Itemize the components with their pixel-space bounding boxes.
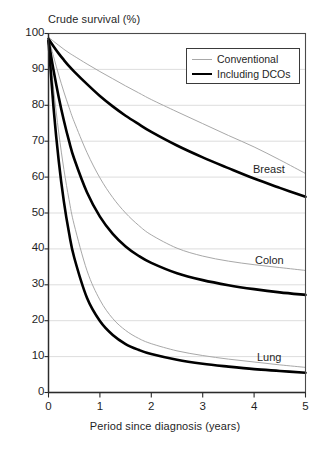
legend-line-including-dcos-icon (192, 73, 212, 75)
legend-item-including-dcos: Including DCOs (192, 66, 291, 82)
chart-legend: Conventional Including DCOs (186, 48, 300, 84)
x-axis-title: Period since diagnosis (years) (0, 420, 330, 432)
y-tick-label-60: 60 (17, 170, 45, 182)
annotation-breast: Breast (253, 163, 285, 175)
legend-item-conventional: Conventional (192, 51, 278, 67)
y-tick-label-50: 50 (17, 206, 45, 218)
legend-label-conventional: Conventional (217, 53, 278, 65)
x-tick-label-4: 4 (244, 400, 264, 412)
x-tick-label-1: 1 (90, 400, 110, 412)
annotation-lung: Lung (257, 351, 281, 363)
survival-chart-figure: Crude survival (%) 100908070605040302010… (0, 0, 330, 452)
y-tick-label-20: 20 (17, 313, 45, 325)
axis-ticks-group (45, 34, 306, 398)
x-tick-label-3: 3 (193, 400, 213, 412)
gridlines-group (49, 69, 306, 356)
curve-lung-conventional (49, 37, 306, 367)
y-tick-label-70: 70 (17, 134, 45, 146)
y-tick-label-30: 30 (17, 277, 45, 289)
annotation-colon: Colon (255, 254, 284, 266)
y-tick-label-10: 10 (17, 349, 45, 361)
data-curves-group (49, 37, 306, 373)
curve-lung-including-dcos (49, 41, 306, 373)
y-tick-label-80: 80 (17, 98, 45, 110)
y-tick-label-90: 90 (17, 62, 45, 74)
legend-line-conventional-icon (192, 59, 212, 60)
y-tick-label-0: 0 (17, 385, 45, 397)
x-tick-label-5: 5 (296, 400, 316, 412)
y-tick-label-100: 100 (17, 26, 45, 38)
x-tick-label-2: 2 (141, 400, 161, 412)
legend-label-including-dcos: Including DCOs (217, 68, 291, 80)
y-tick-label-40: 40 (17, 241, 45, 253)
x-tick-label-0: 0 (39, 400, 59, 412)
